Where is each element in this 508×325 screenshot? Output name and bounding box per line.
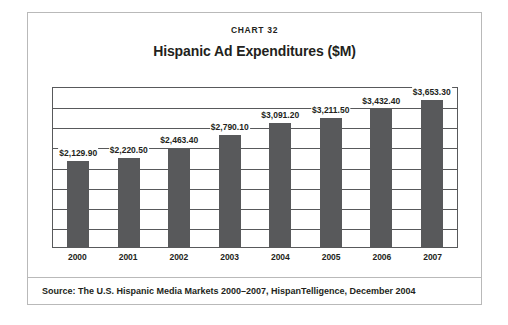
bar-value-label: $2,790.10 [210,122,250,132]
x-axis-tick-label: 2003 [204,252,255,268]
bar-slot: $2,790.10 [205,88,256,247]
bar-slot: $3,211.50 [306,88,357,247]
bar[interactable]: $2,463.40 [168,148,190,247]
bar-slot: $2,220.50 [104,88,155,247]
bar[interactable]: $3,653.30 [421,100,443,247]
bar-slot: $3,091.20 [255,88,306,247]
source-divider [28,277,481,278]
x-axis-tick-label: 2000 [52,252,103,268]
x-axis-tick-label: 2007 [407,252,458,268]
bar[interactable]: $2,790.10 [219,135,241,247]
x-axis-tick-label: 2004 [255,252,306,268]
x-axis-tick-label: 2006 [357,252,408,268]
bar-value-label: $3,432.40 [361,96,401,106]
plot-area: $2,129.90$2,220.50$2,463.40$2,790.10$3,0… [52,87,458,248]
bar-value-label: $3,211.50 [311,105,350,115]
bar-value-label: $2,463.40 [159,135,199,145]
chart-title: Hispanic Ad Expenditures ($M) [28,43,481,59]
bar-slot: $3,432.40 [356,88,407,247]
bar[interactable]: $3,432.40 [370,109,392,247]
bar-value-label: $3,653.30 [412,87,452,97]
bar-slot: $3,653.30 [407,88,458,247]
chart-figure: CHART 32 Hispanic Ad Expenditures ($M) $… [27,12,482,305]
x-axis-tick-label: 2005 [306,252,357,268]
bar[interactable]: $2,129.90 [67,161,89,247]
bar[interactable]: $3,211.50 [320,118,342,247]
bar-series: $2,129.90$2,220.50$2,463.40$2,790.10$3,0… [53,88,457,247]
bar-value-label: $2,220.50 [109,145,149,155]
bar-slot: $2,129.90 [53,88,104,247]
chart-number-label: CHART 32 [28,25,481,35]
bar[interactable]: $3,091.20 [269,123,291,247]
bar-value-label: $3,091.20 [260,110,300,120]
x-axis-tick-label: 2001 [103,252,154,268]
x-axis-tick-label: 2002 [154,252,205,268]
bar-value-label: $2,129.90 [58,148,98,158]
bar-slot: $2,463.40 [154,88,205,247]
source-note: Source: The U.S. Hispanic Media Markets … [42,286,471,296]
x-axis-tick-labels: 20002001200220032004200520062007 [52,252,458,268]
bar[interactable]: $2,220.50 [118,158,140,247]
